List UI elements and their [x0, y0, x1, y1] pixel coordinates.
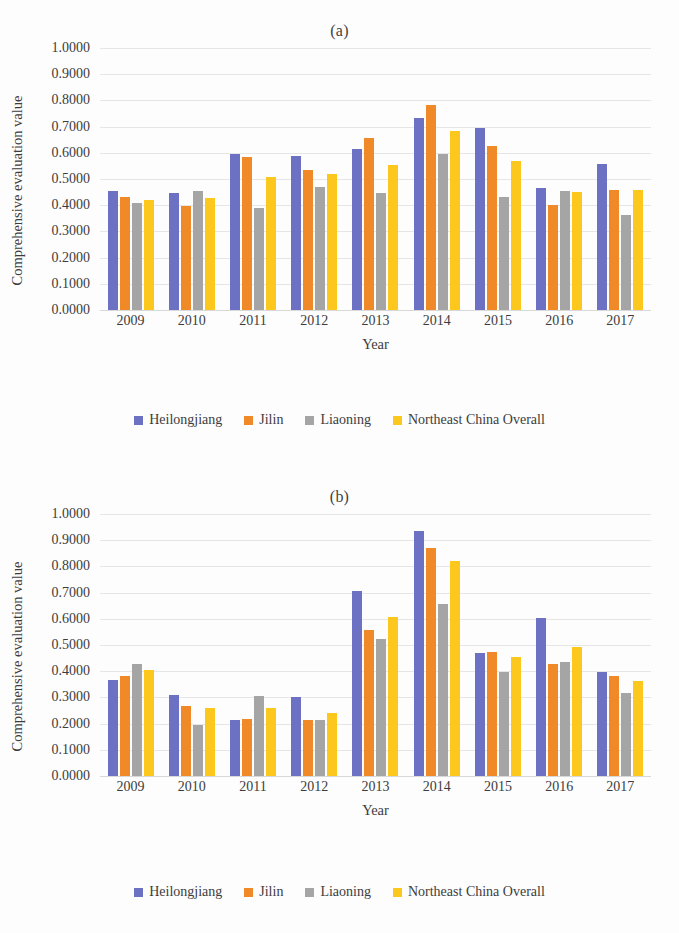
a-bar[interactable]: [633, 190, 643, 310]
a-legend-label: Jilin: [259, 412, 283, 428]
a-bar[interactable]: [230, 154, 240, 310]
b-bar[interactable]: [205, 708, 215, 776]
b-bar[interactable]: [291, 697, 301, 776]
b-bar[interactable]: [108, 680, 118, 776]
b-bar[interactable]: [426, 548, 436, 776]
b-bar[interactable]: [487, 652, 497, 776]
panel-b-y-axis-label: Comprehensive evaluation value: [6, 514, 28, 799]
a-bar[interactable]: [450, 131, 460, 310]
a-y-tick: 0.0000: [52, 302, 91, 318]
a-bar[interactable]: [132, 203, 142, 310]
a-y-tick: 0.6000: [52, 145, 91, 161]
a-bar[interactable]: [438, 154, 448, 310]
b-bar[interactable]: [266, 708, 276, 776]
a-bar[interactable]: [475, 128, 485, 310]
a-bar[interactable]: [621, 215, 631, 310]
a-bar[interactable]: [120, 197, 130, 310]
a-bar[interactable]: [303, 170, 313, 310]
a-bar[interactable]: [536, 188, 546, 310]
b-bar[interactable]: [388, 617, 398, 776]
a-bar[interactable]: [193, 191, 203, 310]
a-bar[interactable]: [388, 165, 398, 310]
a-bar[interactable]: [352, 149, 362, 310]
b-legend-item[interactable]: Liaoning: [305, 884, 371, 900]
b-bar[interactable]: [132, 664, 142, 776]
a-bar[interactable]: [242, 157, 252, 310]
a-bar[interactable]: [144, 200, 154, 310]
b-bar[interactable]: [475, 653, 485, 776]
b-bar[interactable]: [327, 713, 337, 776]
b-bar[interactable]: [548, 664, 558, 776]
b-bar[interactable]: [438, 604, 448, 776]
panel-b-y-ticks: 1.00000.90000.80000.70000.60000.50000.40…: [26, 514, 94, 784]
a-bar[interactable]: [414, 118, 424, 310]
b-bar[interactable]: [633, 681, 643, 776]
b-bar[interactable]: [230, 720, 240, 776]
legend-swatch-icon: [134, 416, 143, 425]
b-x-tick: 2017: [590, 779, 651, 795]
a-bar-group: [406, 48, 467, 310]
a-bar[interactable]: [487, 146, 497, 310]
a-bar[interactable]: [548, 205, 558, 310]
a-bar[interactable]: [560, 191, 570, 310]
b-bar[interactable]: [303, 720, 313, 776]
b-bar[interactable]: [120, 676, 130, 776]
b-bar[interactable]: [560, 662, 570, 776]
a-bar[interactable]: [327, 174, 337, 310]
a-bar-group: [345, 48, 406, 310]
a-bar[interactable]: [315, 187, 325, 310]
legend-swatch-icon: [305, 888, 314, 897]
b-bar[interactable]: [450, 561, 460, 776]
a-bar[interactable]: [572, 192, 582, 310]
b-bar[interactable]: [169, 695, 179, 776]
b-bar[interactable]: [376, 639, 386, 776]
a-x-tick: 2013: [345, 313, 406, 329]
a-bar[interactable]: [266, 177, 276, 310]
b-bar[interactable]: [193, 725, 203, 776]
b-bar[interactable]: [254, 696, 264, 776]
b-bar[interactable]: [572, 647, 582, 776]
a-legend-item[interactable]: Northeast China Overall: [393, 412, 545, 428]
b-y-tick: 0.8000: [52, 558, 91, 574]
a-bar-group: [467, 48, 528, 310]
a-bar[interactable]: [364, 138, 374, 310]
b-bar[interactable]: [597, 672, 607, 776]
a-bar[interactable]: [169, 193, 179, 310]
a-bar[interactable]: [181, 206, 191, 310]
b-bar[interactable]: [621, 693, 631, 776]
a-bar[interactable]: [376, 193, 386, 310]
a-legend-item[interactable]: Heilongjiang: [134, 412, 222, 428]
b-bar[interactable]: [242, 719, 252, 776]
b-y-tick: 0.4000: [52, 663, 91, 679]
b-bar-group: [467, 514, 528, 776]
b-bar[interactable]: [144, 670, 154, 776]
a-bar[interactable]: [108, 191, 118, 310]
a-y-tick: 0.1000: [52, 276, 91, 292]
a-bar[interactable]: [511, 161, 521, 310]
b-bar[interactable]: [536, 618, 546, 776]
b-bar[interactable]: [352, 591, 362, 776]
a-x-tick: 2017: [590, 313, 651, 329]
a-x-tick: 2010: [161, 313, 222, 329]
b-bar[interactable]: [315, 720, 325, 776]
a-bar[interactable]: [499, 197, 509, 310]
b-bar[interactable]: [414, 531, 424, 776]
a-legend-item[interactable]: Liaoning: [305, 412, 371, 428]
b-bar[interactable]: [364, 630, 374, 776]
a-bar[interactable]: [254, 208, 264, 310]
b-bar[interactable]: [499, 672, 509, 776]
b-bar[interactable]: [511, 657, 521, 776]
a-bar-group: [222, 48, 283, 310]
b-legend-item[interactable]: Heilongjiang: [134, 884, 222, 900]
a-legend-item[interactable]: Jilin: [244, 412, 283, 428]
b-bar[interactable]: [609, 676, 619, 776]
a-bar[interactable]: [426, 105, 436, 310]
b-x-tick: 2011: [222, 779, 283, 795]
a-bar[interactable]: [205, 198, 215, 310]
b-legend-item[interactable]: Northeast China Overall: [393, 884, 545, 900]
a-bar[interactable]: [609, 190, 619, 310]
b-legend-item[interactable]: Jilin: [244, 884, 283, 900]
a-bar[interactable]: [597, 164, 607, 310]
b-bar[interactable]: [181, 706, 191, 776]
a-bar[interactable]: [291, 156, 301, 310]
